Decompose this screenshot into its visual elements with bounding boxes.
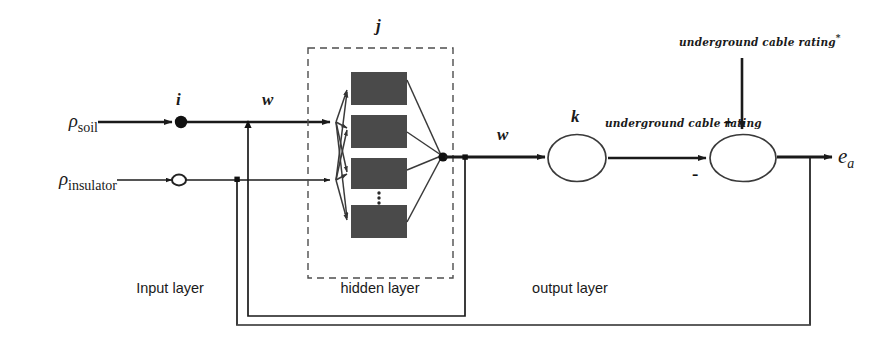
hidden-neuron (351, 205, 407, 238)
error-subscript: a (847, 156, 854, 171)
label-error-output: ea (838, 144, 854, 172)
hidden-neuron (351, 72, 407, 105)
synapses-hidden-to-output (407, 80, 441, 222)
label-hidden-index-j: j (376, 16, 381, 36)
summing-junction (710, 135, 776, 182)
diagram-canvas: ρsoil ρinsulator i w j w k underground c… (0, 0, 882, 348)
layer-label-hidden: hidden layer (320, 280, 440, 297)
output-neuron-k (548, 135, 606, 182)
rho-subscript-soil: soil (78, 120, 98, 135)
target-rating-star: * (836, 33, 841, 43)
layer-label-output: output layer (510, 280, 630, 297)
sum-minus-sign: - (692, 163, 698, 185)
input-line-insulator (117, 175, 330, 186)
hidden-neuron (351, 115, 407, 148)
input-label-soil: ρsoil (20, 110, 98, 136)
rho-symbol-soil: ρ (69, 110, 78, 131)
target-rating-text: underground cable rating (679, 36, 836, 48)
hidden-neurons (351, 72, 407, 238)
input-node-insulator (172, 175, 186, 186)
label-output-index-k: k (571, 107, 580, 127)
label-network-output: underground cable rating (605, 117, 710, 129)
layer-label-input: Input layer (110, 280, 230, 297)
error-symbol: e (838, 144, 847, 168)
sum-plus-sign: + (723, 112, 734, 134)
feedback-tap-hidden (462, 154, 467, 159)
feedback-tap-insulator (234, 177, 239, 182)
label-input-index-i: i (176, 90, 181, 110)
rho-symbol-insulator: ρ (59, 168, 68, 189)
input-node-soil (175, 116, 187, 128)
label-target-rating: underground cable rating* (679, 33, 805, 48)
input-label-insulator: ρinsulator (0, 168, 117, 194)
feedback-path-outer (237, 158, 810, 325)
label-weight-input: w (262, 90, 273, 110)
rho-subscript-insulator: insulator (68, 178, 117, 193)
hidden-neuron-ellipsis (377, 191, 380, 204)
synapses-input-to-hidden (336, 90, 347, 220)
label-weight-output: w (497, 125, 508, 145)
hidden-neuron (351, 158, 407, 189)
input-line-soil (98, 116, 330, 128)
